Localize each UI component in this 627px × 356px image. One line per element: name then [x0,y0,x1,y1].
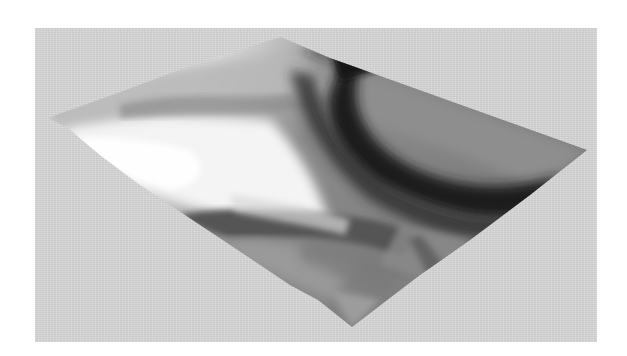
terrain-surface-render [0,0,627,356]
terrain-surface [0,0,627,356]
